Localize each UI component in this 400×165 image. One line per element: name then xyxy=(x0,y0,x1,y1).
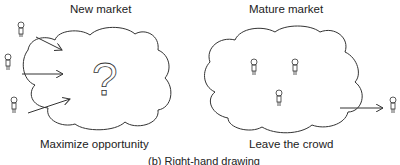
person-icon xyxy=(5,54,11,70)
arrow-icon xyxy=(28,99,70,113)
person-icon xyxy=(276,90,282,106)
arrow-icon xyxy=(36,37,62,50)
person-icon xyxy=(292,59,298,75)
diagram-canvas: ? xyxy=(0,0,400,165)
person-icon xyxy=(18,22,24,37)
person-icon xyxy=(11,97,17,113)
person-icon xyxy=(390,97,396,113)
question-mark-symbol: ? xyxy=(92,53,118,105)
mature-market-cloud xyxy=(205,26,363,133)
person-icon xyxy=(251,59,257,75)
